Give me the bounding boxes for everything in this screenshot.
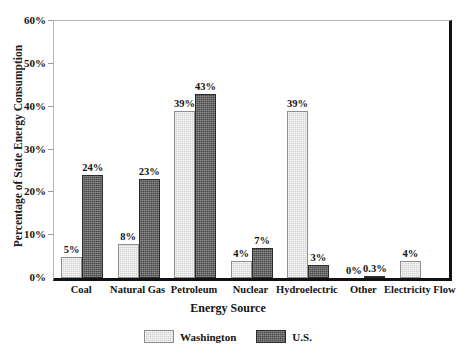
bar-value-label: 39% bbox=[287, 98, 308, 109]
x-axis-category-hydroelectric: Hydroelectric bbox=[276, 284, 338, 295]
bar-us-other bbox=[364, 276, 385, 278]
bar-washington-electricity-flow bbox=[400, 261, 421, 278]
bar-washington-natural-gas bbox=[118, 244, 139, 278]
x-axis-category-other: Other bbox=[350, 284, 377, 295]
dark-gray-swatch bbox=[256, 330, 286, 343]
bar-value-label: 43% bbox=[195, 81, 216, 92]
legend-item-us[interactable]: U.S. bbox=[256, 330, 312, 343]
plot-area: 5%24%8%23%39%43%4%7%39%3%0%0.3%4% bbox=[53, 20, 452, 281]
y-axis-tick-label: 40% bbox=[2, 100, 46, 112]
bar-value-label: 23% bbox=[139, 166, 160, 177]
y-axis-tick-label: 60% bbox=[2, 14, 46, 26]
legend-label: Washington bbox=[180, 331, 236, 343]
bar-us-coal bbox=[82, 175, 103, 278]
y-axis-tick-label: 50% bbox=[2, 57, 46, 69]
legend-item-washington[interactable]: Washington bbox=[144, 330, 236, 343]
bar-value-label: 5% bbox=[64, 244, 80, 255]
bar-us-natural-gas bbox=[139, 179, 160, 278]
bar-value-label: 4% bbox=[233, 248, 249, 259]
bar-value-label: 4% bbox=[402, 248, 418, 259]
x-axis-category-natural-gas: Natural Gas bbox=[110, 284, 165, 295]
bar-value-label: 3% bbox=[311, 252, 327, 263]
x-axis-category-nuclear: Nuclear bbox=[233, 284, 269, 295]
y-axis-tick-label: 20% bbox=[2, 185, 46, 197]
x-axis-category-petroleum: Petroleum bbox=[171, 284, 217, 295]
bar-us-petroleum bbox=[195, 94, 216, 278]
light-gray-swatch bbox=[144, 330, 174, 343]
bar-chart-figure: Percentage of State Energy Consumption 0… bbox=[0, 0, 456, 353]
bar-washington-coal bbox=[61, 257, 82, 278]
bar-value-label: 7% bbox=[254, 235, 270, 246]
x-axis-title: Energy Source bbox=[0, 301, 456, 316]
bar-value-label: 0% bbox=[346, 265, 362, 276]
bar-washington-petroleum bbox=[174, 111, 195, 278]
bar-washington-hydroelectric bbox=[287, 111, 308, 278]
bar-value-label: 8% bbox=[120, 231, 136, 242]
legend-label: U.S. bbox=[292, 331, 312, 343]
bar-us-nuclear bbox=[252, 248, 273, 278]
bar-us-hydroelectric bbox=[308, 265, 329, 278]
y-axis-tick-label: 0% bbox=[2, 271, 46, 283]
y-axis-tick-label: 10% bbox=[2, 228, 46, 240]
bar-value-label: 24% bbox=[82, 162, 103, 173]
x-axis-category-electricity-flow: Electricity Flow bbox=[384, 284, 455, 295]
chart-legend: WashingtonU.S. bbox=[0, 330, 456, 343]
bar-value-label: 0.3% bbox=[363, 263, 387, 274]
y-axis-tick-label: 30% bbox=[2, 143, 46, 155]
bar-washington-nuclear bbox=[231, 261, 252, 278]
cropped-title-remnant bbox=[40, 0, 260, 2]
bar-value-label: 39% bbox=[174, 98, 195, 109]
x-axis-category-coal: Coal bbox=[71, 284, 92, 295]
